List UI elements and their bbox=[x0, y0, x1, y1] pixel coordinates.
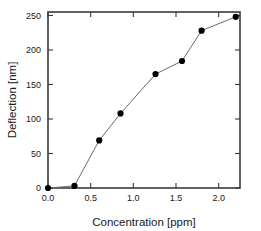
x-tick-label: 0.0 bbox=[42, 193, 55, 203]
data-point bbox=[96, 137, 102, 143]
data-point bbox=[71, 183, 77, 189]
x-tick-label: 1.0 bbox=[127, 193, 140, 203]
x-tick-label: 1.5 bbox=[170, 193, 183, 203]
y-tick-label: 100 bbox=[26, 114, 41, 124]
data-point bbox=[117, 110, 123, 116]
chart-figure: 050100150200250 0.00.51.01.52.0 Concentr… bbox=[0, 0, 261, 231]
y-axis-title: Deflection [nm] bbox=[6, 62, 18, 139]
y-tick-label: 150 bbox=[26, 80, 41, 90]
y-tick-label: 0 bbox=[36, 183, 41, 193]
y-tick-label: 250 bbox=[26, 11, 41, 21]
deflection-vs-concentration-chart: 050100150200250 0.00.51.01.52.0 Concentr… bbox=[0, 0, 261, 231]
x-tick-label: 2.0 bbox=[212, 193, 225, 203]
y-tick-label: 200 bbox=[26, 45, 41, 55]
data-point bbox=[152, 71, 158, 77]
x-axis-title: Concentration [ppm] bbox=[92, 216, 196, 228]
data-point bbox=[179, 58, 185, 64]
data-point bbox=[233, 14, 239, 20]
data-point bbox=[199, 28, 205, 34]
y-tick-label: 50 bbox=[31, 149, 41, 159]
data-point bbox=[45, 185, 51, 191]
x-tick-label: 0.5 bbox=[84, 193, 97, 203]
